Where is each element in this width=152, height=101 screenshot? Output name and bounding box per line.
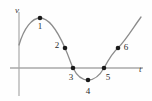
data-point-marker [63, 46, 68, 51]
data-point-marker [102, 66, 107, 71]
plot-canvas: v t 1 2 3 4 5 6 [0, 0, 152, 101]
v-axis-label: v [15, 5, 19, 15]
point-label-1: 1 [38, 21, 43, 31]
velocity-time-graph-figure: v t 1 2 3 4 5 6 [0, 0, 152, 101]
point-label-2: 2 [55, 40, 60, 50]
point-label-3: 3 [69, 72, 74, 82]
data-point-marker [38, 16, 43, 21]
data-point-marker [71, 66, 76, 71]
point-label-6: 6 [124, 42, 129, 52]
point-label-5: 5 [106, 72, 111, 82]
data-point-marker [86, 78, 91, 83]
data-point-marker [116, 46, 121, 51]
t-axis-label: t [139, 64, 142, 74]
point-label-4: 4 [86, 86, 91, 96]
